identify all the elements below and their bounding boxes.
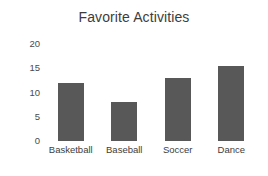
- y-tick-label: 20: [14, 39, 40, 49]
- x-tick-label: Baseball: [106, 144, 142, 156]
- x-tick-label: Dance: [218, 144, 245, 156]
- y-tick-label: 15: [14, 63, 40, 73]
- x-tick-label: Soccer: [163, 144, 193, 156]
- y-tick-label: 5: [14, 112, 40, 122]
- plot-area: [44, 44, 258, 141]
- bar: [218, 66, 244, 141]
- y-tick-label: 10: [14, 88, 40, 98]
- bar-chart-figure: Favorite Activities 05101520 BasketballB…: [0, 0, 268, 176]
- bars-layer: [44, 44, 258, 141]
- y-axis: 05101520: [14, 44, 40, 141]
- chart-title: Favorite Activities: [0, 9, 268, 25]
- bar: [165, 78, 191, 141]
- x-axis: BasketballBaseballSoccerDance: [44, 144, 258, 160]
- bar: [111, 102, 137, 141]
- y-tick-label: 0: [14, 136, 40, 146]
- bar: [58, 83, 84, 141]
- x-tick-label: Basketball: [49, 144, 93, 156]
